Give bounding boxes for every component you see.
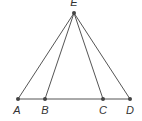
label-b: B [41, 104, 48, 116]
points [16, 11, 132, 101]
point-e [72, 11, 76, 15]
segments [18, 13, 130, 99]
point-d [128, 97, 132, 101]
segment-ed [74, 13, 130, 99]
label-c: C [99, 104, 107, 116]
segment-ec [74, 13, 103, 99]
point-c [101, 97, 105, 101]
point-a [16, 97, 20, 101]
label-e: E [70, 0, 78, 8]
point-b [43, 97, 47, 101]
label-d: D [126, 104, 134, 116]
label-a: A [12, 104, 20, 116]
segment-eb [45, 13, 74, 99]
segment-ea [18, 13, 74, 99]
geometry-diagram: EABCD [0, 0, 142, 121]
